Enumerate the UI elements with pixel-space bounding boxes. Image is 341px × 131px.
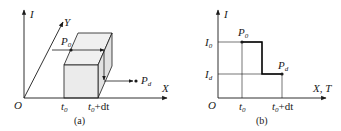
t0-dt-tick-label: t0+dt: [88, 100, 109, 114]
y-axis-label: Y: [64, 16, 72, 28]
y-axis: [24, 22, 63, 98]
intensity-step-curve: [242, 42, 282, 74]
origin-label: O: [14, 99, 22, 111]
pd-label-b: Pd: [277, 59, 289, 73]
cube-front-face: [64, 65, 98, 98]
caption-a: (a): [74, 115, 85, 127]
id-tick-label: Id: [204, 68, 213, 82]
origin-label-b: O: [208, 99, 216, 111]
caption-b: (b): [256, 115, 268, 127]
diagram-canvas: I Y X O P0 Pd t0 t0+dt (a) I X, T O I0 I…: [0, 0, 341, 131]
p0-label-b: P0: [237, 26, 249, 40]
t0-tick-label-b: t0: [239, 100, 246, 114]
panel-a: I Y X O P0 Pd t0 t0+dt (a): [14, 8, 170, 127]
i0-tick-label: I0: [204, 36, 213, 50]
pd-label: Pd: [140, 74, 152, 88]
panel-b: I X, T O I0 Id P0 Pd t0 t0+dt (b): [204, 8, 332, 127]
i-axis-label: I: [29, 8, 35, 20]
point-pd-marker: [134, 79, 137, 82]
t0-dt-tick-label-b: t0+dt: [272, 100, 293, 114]
x-axis-label: X: [161, 82, 170, 94]
point-pd-marker-b: [280, 72, 283, 75]
x-axis-label-b: X, T: [312, 82, 332, 94]
p0-label: P0: [60, 35, 72, 49]
i-axis-label-b: I: [223, 8, 229, 20]
point-p0-marker-b: [240, 40, 243, 43]
t0-tick-label: t0: [61, 100, 68, 114]
